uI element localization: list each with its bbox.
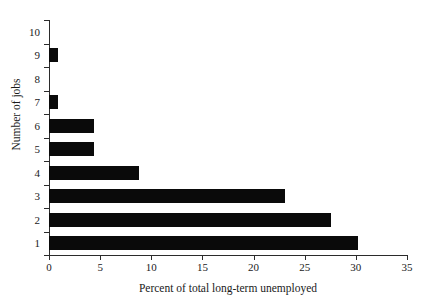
bar: [49, 166, 139, 180]
y-axis-tick-label: 3: [0, 191, 40, 202]
bar: [49, 119, 94, 133]
x-axis-tick: [151, 255, 152, 260]
x-axis-tick: [254, 255, 255, 260]
x-axis-tick: [305, 255, 306, 260]
x-axis-line: [49, 255, 408, 256]
bar: [49, 48, 58, 62]
x-axis-tick-label: 30: [350, 262, 361, 273]
x-axis-title: Percent of total long-term unemployed: [49, 282, 407, 295]
x-axis-tick: [49, 255, 50, 260]
bar: [49, 95, 58, 109]
plot-area: [49, 20, 407, 255]
bar: [49, 189, 285, 203]
y-axis-title: Number of jobs: [10, 55, 23, 175]
x-axis-tick-label: 35: [402, 262, 413, 273]
x-axis-tick: [356, 255, 357, 260]
x-axis-tick: [407, 255, 408, 260]
bar: [49, 236, 358, 250]
y-axis-tick-label: 2: [0, 214, 40, 225]
y-axis-tick-label: 1: [0, 238, 40, 249]
x-axis-tick-label: 5: [97, 262, 103, 273]
x-axis-tick: [202, 255, 203, 260]
bar: [49, 142, 94, 156]
y-axis-tick: [44, 255, 49, 256]
x-axis-tick-label: 20: [248, 262, 259, 273]
bar: [49, 213, 331, 227]
x-axis-tick: [100, 255, 101, 260]
bar-chart-figure: 05101520253035 12345678910 Percent of to…: [0, 0, 430, 307]
x-axis-tick-label: 25: [299, 262, 310, 273]
x-axis-tick-label: 15: [197, 262, 208, 273]
x-axis-tick-label: 10: [146, 262, 157, 273]
y-axis-tick-label: 10: [0, 26, 40, 37]
x-axis-tick-label: 0: [46, 262, 52, 273]
